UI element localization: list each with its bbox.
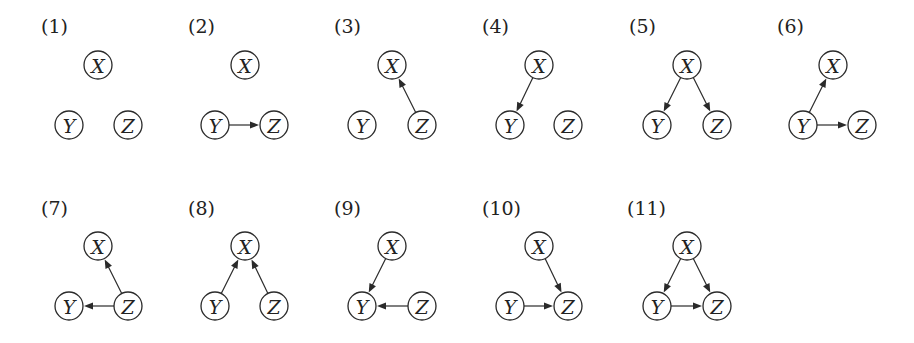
causal-graph-figure: (1)XYZ(2)XYZ(3)XYZ(4)XYZ(5)XYZ(6)XYZ(7)X… xyxy=(0,0,914,343)
node-y: Y xyxy=(201,111,229,139)
node-z: Z xyxy=(114,111,142,139)
edge-x-to-y xyxy=(664,259,681,293)
node-label: Z xyxy=(560,296,575,318)
arrowhead-icon xyxy=(554,283,561,293)
edge-x-to-z xyxy=(545,259,561,293)
node-z: Z xyxy=(703,292,731,320)
node-z: Z xyxy=(114,292,142,320)
node-y: Y xyxy=(496,292,524,320)
edge-y-to-x xyxy=(221,259,238,293)
node-z: Z xyxy=(260,111,288,139)
node-y: Y xyxy=(201,292,229,320)
arrowhead-icon xyxy=(544,302,553,309)
panel-label: (4) xyxy=(482,15,509,37)
graph-panel-3: (3)XYZ xyxy=(334,15,436,139)
panel-label: (5) xyxy=(629,15,656,37)
edge-z-to-x xyxy=(105,259,122,293)
node-label: Z xyxy=(414,115,429,137)
edge-x-to-z xyxy=(693,78,710,112)
node-y: Y xyxy=(348,111,376,139)
arrowhead-icon xyxy=(693,302,702,309)
node-y: Y xyxy=(643,111,671,139)
arrowhead-icon xyxy=(250,121,259,128)
arrowhead-icon xyxy=(703,283,710,293)
node-x: X xyxy=(819,51,847,79)
edge-x-to-y xyxy=(517,78,533,112)
panel-label: (1) xyxy=(41,15,68,37)
arrowhead-icon xyxy=(819,78,826,88)
edge-y-to-z xyxy=(671,302,702,309)
arrowhead-icon xyxy=(399,78,406,88)
arrowhead-icon xyxy=(664,102,671,112)
edge-y-to-x xyxy=(809,78,826,112)
edge-x-to-z xyxy=(693,259,710,293)
node-x: X xyxy=(525,232,553,260)
node-y: Y xyxy=(55,292,83,320)
node-label: X xyxy=(89,236,106,258)
graph-panel-6: (6)XYZ xyxy=(777,15,876,139)
node-label: X xyxy=(236,236,253,258)
node-label: X xyxy=(383,236,400,258)
node-z: Z xyxy=(848,111,876,139)
node-label: X xyxy=(383,55,400,77)
arrowhead-icon xyxy=(517,102,524,112)
node-y: Y xyxy=(55,111,83,139)
node-z: Z xyxy=(554,292,582,320)
node-z: Z xyxy=(703,111,731,139)
graph-panel-1: (1)XYZ xyxy=(41,15,142,139)
arrowhead-icon xyxy=(377,302,386,309)
node-x: X xyxy=(525,51,553,79)
panel-label: (7) xyxy=(41,197,68,219)
node-z: Z xyxy=(408,111,436,139)
node-y: Y xyxy=(348,292,376,320)
graph-panel-10: (10)XYZ xyxy=(482,197,582,320)
node-x: X xyxy=(231,51,259,79)
node-x: X xyxy=(84,232,112,260)
panel-label: (10) xyxy=(482,197,521,219)
node-label: Z xyxy=(266,296,281,318)
arrowhead-icon xyxy=(231,259,238,269)
node-y: Y xyxy=(789,111,817,139)
edge-z-to-y xyxy=(377,302,408,309)
node-label: Z xyxy=(414,296,429,318)
node-label: X xyxy=(678,236,695,258)
edge-z-to-y xyxy=(84,302,114,309)
node-y: Y xyxy=(643,292,671,320)
panel-label: (8) xyxy=(188,197,215,219)
node-y: Y xyxy=(496,111,524,139)
node-label: X xyxy=(530,55,547,77)
node-x: X xyxy=(673,51,701,79)
arrowhead-icon xyxy=(105,259,112,269)
edge-z-to-x xyxy=(399,78,416,112)
panel-label: (11) xyxy=(627,197,666,219)
node-x: X xyxy=(673,232,701,260)
edge-x-to-y xyxy=(664,78,681,112)
node-label: Z xyxy=(266,115,281,137)
node-x: X xyxy=(378,51,406,79)
graph-panel-5: (5)XYZ xyxy=(629,15,731,139)
node-z: Z xyxy=(408,292,436,320)
arrowhead-icon xyxy=(369,283,376,293)
panel-label: (6) xyxy=(777,15,804,37)
node-label: Z xyxy=(709,115,724,137)
node-x: X xyxy=(231,232,259,260)
graph-panel-4: (4)XYZ xyxy=(482,15,582,139)
node-x: X xyxy=(84,51,112,79)
node-label: X xyxy=(236,55,253,77)
panel-label: (9) xyxy=(334,197,361,219)
node-label: Z xyxy=(120,115,135,137)
panel-label: (3) xyxy=(334,15,361,37)
arrowhead-icon xyxy=(703,102,710,112)
graph-panel-11: (11)XYZ xyxy=(627,197,731,320)
node-label: Z xyxy=(120,296,135,318)
arrowhead-icon xyxy=(838,121,847,128)
node-label: X xyxy=(530,236,547,258)
node-label: X xyxy=(824,55,841,77)
arrowhead-icon xyxy=(84,302,93,309)
node-z: Z xyxy=(260,292,288,320)
panel-label: (2) xyxy=(188,15,215,37)
graph-panel-2: (2)XYZ xyxy=(188,15,288,139)
node-x: X xyxy=(378,232,406,260)
node-label: Z xyxy=(560,115,575,137)
graph-panel-8: (8)XYZ xyxy=(188,197,288,320)
